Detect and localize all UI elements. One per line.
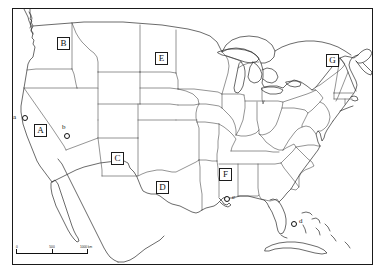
border-ky-wv-va — [259, 134, 283, 150]
border-nh-me — [336, 72, 348, 101]
border-ks-mo — [178, 104, 199, 105]
point-label-b: b — [62, 123, 66, 131]
us-mexico-border — [52, 161, 202, 213]
border-pa-ny — [283, 90, 316, 102]
region-label-text: A — [37, 125, 44, 135]
border-il-in — [236, 95, 245, 135]
bahamas-5 — [325, 224, 330, 231]
border-tn-ms-al-ga — [219, 163, 281, 164]
border-wi-il-mi — [222, 94, 244, 95]
border-id-mt — [72, 23, 98, 72]
border-sd-mn-ia — [176, 73, 178, 89]
atlantic-coast-southeast — [279, 146, 320, 202]
scale-label-2: 1000 km — [80, 245, 92, 249]
border-nc-va — [296, 145, 320, 147]
border-ne-ia-mo — [178, 89, 199, 122]
point-marker-b — [64, 133, 70, 139]
bahamas-3 — [303, 225, 306, 233]
scale-label-0: 0 — [16, 245, 18, 249]
border-tn-nc — [281, 144, 296, 163]
border-sd-nd — [140, 72, 176, 73]
border-ks-ne — [140, 104, 178, 105]
region-label-C: C — [111, 152, 124, 165]
chesapeake-delaware — [316, 121, 333, 146]
bahamas-2 — [312, 218, 320, 223]
border-wv-pa-md — [282, 108, 308, 127]
border-ar-mo — [197, 122, 219, 124]
cuba — [265, 242, 327, 254]
border-ar-ms — [217, 124, 219, 161]
coastlines-group — [21, 9, 372, 262]
region-label-text: F — [223, 169, 228, 179]
region-label-text: D — [159, 182, 166, 192]
region-label-F: F — [219, 168, 232, 181]
region-label-text: E — [159, 53, 165, 63]
point-marker-a — [22, 115, 28, 121]
point-label-a: a — [13, 113, 16, 121]
lake-ontario — [286, 81, 301, 87]
scale-tick-1 — [52, 249, 53, 254]
scale-bar: 0 500 1000 km — [16, 247, 88, 256]
border-al-fl — [238, 195, 259, 196]
region-label-G: G — [326, 54, 339, 67]
border-oh-pa-wv — [259, 101, 283, 135]
bahamas-7 — [345, 242, 350, 248]
lake-erie — [262, 87, 283, 94]
us-canada-border — [33, 22, 358, 90]
region-label-E: E — [155, 52, 168, 65]
map-figure: B E G A C D F a b c d 0 500 1000 km — [0, 0, 385, 273]
point-label-c: c — [232, 193, 235, 201]
border-mi-up — [238, 62, 259, 68]
border-mn-wi — [222, 52, 229, 94]
point-marker-d — [291, 221, 297, 227]
region-label-A: A — [34, 124, 47, 137]
florida-keys — [281, 235, 287, 238]
scale-tick-0 — [16, 249, 17, 254]
mexico-gulf-coast — [118, 236, 164, 262]
border-nv-az — [66, 120, 98, 150]
region-label-D: D — [156, 181, 169, 194]
point-marker-c — [224, 196, 230, 202]
border-ok-ar — [197, 122, 199, 160]
border-ne-sd — [140, 88, 178, 89]
puget-sound-detail — [29, 12, 33, 34]
region-label-text: G — [329, 55, 336, 65]
georgian-bay — [262, 68, 278, 83]
border-az-nm — [98, 138, 102, 176]
bahamas-4 — [316, 228, 320, 235]
border-mo-ia — [199, 104, 222, 108]
border-ok-tx — [138, 160, 199, 176]
region-label-B: B — [57, 37, 70, 50]
border-al-ga — [258, 164, 265, 200]
border-nv-ca — [24, 88, 66, 150]
scale-label-1: 500 — [49, 245, 54, 249]
border-ga-sc — [281, 163, 299, 190]
region-label-text: C — [114, 153, 120, 163]
gulf-coast — [202, 196, 269, 210]
bahamas-6 — [331, 235, 336, 241]
border-or-id — [72, 69, 77, 88]
border-tx-la — [199, 160, 202, 210]
border-ny-nj — [318, 102, 330, 131]
pacific-northwest-coast — [21, 9, 52, 182]
cape-cod — [351, 96, 358, 101]
border-pa-ny-east — [308, 90, 323, 113]
point-label-d: d — [299, 217, 303, 225]
border-ar-la — [199, 160, 217, 161]
border-in-ky — [236, 102, 259, 136]
border-mo-il-ky — [219, 124, 236, 151]
florida-peninsula — [269, 199, 286, 234]
lake-huron — [248, 62, 262, 83]
lake-michigan — [234, 62, 245, 93]
bahamas-1 — [302, 212, 312, 215]
state-boundaries-group — [24, 23, 353, 210]
border-ky-tn — [231, 151, 279, 152]
maritime-canada — [356, 49, 372, 63]
border-wa-or — [27, 69, 72, 70]
region-label-text: B — [60, 38, 66, 48]
scale-tick-2 — [87, 249, 88, 254]
ontario-quebec-north — [275, 41, 351, 55]
